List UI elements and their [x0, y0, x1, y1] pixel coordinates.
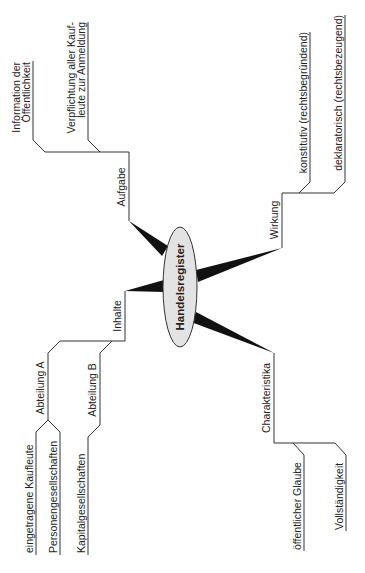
leaf-personengesellschaften[interactable]: Personengesellschaften — [47, 441, 59, 553]
verpflichtung-leaf-line — [88, 22, 100, 152]
center-label: Handelsregister — [174, 243, 186, 330]
center-node[interactable]: Handelsregister — [163, 227, 197, 347]
branch-wedges — [125, 221, 282, 353]
wirkung-wedge — [196, 248, 282, 282]
leaf-vollstaendigkeit[interactable]: Vollständigkeit — [333, 463, 345, 530]
leaf-verpflichtung-line2[interactable]: leute zur Anmeldung — [75, 22, 87, 118]
branch-label-aufgabe[interactable]: Aufgabe — [115, 167, 127, 206]
leaf-konstitutiv[interactable]: konstitutiv (rechtsbegründend) — [297, 32, 309, 173]
aufgabe-wedge — [129, 221, 168, 256]
branch-label-wirkung[interactable]: Wirkung — [268, 201, 280, 240]
inhalte-wedge — [125, 280, 164, 292]
charakteristika-wedge — [191, 312, 274, 353]
mind-map-canvas: Handelsregister Aufgabe Wirkung Inhalte … — [0, 0, 365, 573]
leaf-oeffentlicher-glaube[interactable]: öffentlicher Glaube — [291, 462, 303, 550]
leaf-eingetragene-kaufleute[interactable]: eingetragene Kaufleute — [23, 444, 35, 553]
branch-label-inhalte[interactable]: Inhalte — [111, 300, 123, 332]
sub-label-abteilung-b[interactable]: Abteilung B — [86, 363, 98, 417]
branch-label-charakteristika[interactable]: Charakteristika — [260, 363, 272, 433]
leaf-deklaratorisch[interactable]: deklaratorisch (rechtsbezeugend) — [332, 15, 344, 171]
leaf-information-line2[interactable]: Öffentlichkeit — [20, 62, 32, 123]
leaf-kapitalgesellschaften[interactable]: Kapitalgesellschaften — [75, 454, 87, 553]
sub-label-abteilung-a[interactable]: Abteilung A — [34, 361, 46, 414]
